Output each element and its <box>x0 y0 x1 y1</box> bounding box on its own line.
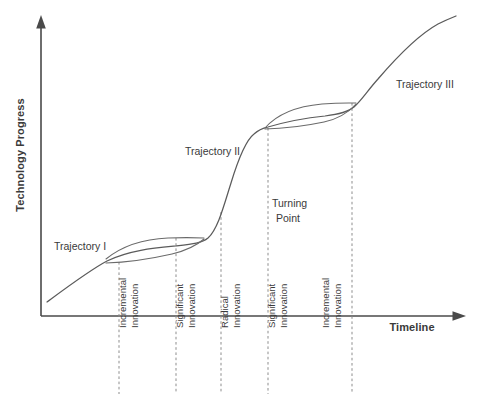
tick-label-2-line1: Significant <box>174 283 185 328</box>
x-axis: Timeline <box>41 311 466 333</box>
turning-point-annotation: Turning Point <box>272 197 307 224</box>
trajectory-2-label: Trajectory II <box>185 145 240 157</box>
tick-label-group-1: Incremental Innovation <box>117 278 140 328</box>
y-axis-title: Technology Progress <box>14 98 26 212</box>
tick-label-3-line2: Innovation <box>231 284 242 328</box>
x-axis-arrowhead <box>453 311 467 321</box>
x-axis-title: Timeline <box>389 321 434 333</box>
diagram-canvas: Technology Progress Timeline <box>0 0 497 398</box>
turning-point-label-line1: Turning <box>272 197 307 209</box>
y-axis-arrowhead <box>36 15 46 29</box>
lens-region-trajectory-2 <box>265 103 356 129</box>
trajectory-3-label: Trajectory III <box>396 78 454 90</box>
s-curve-group <box>47 16 456 302</box>
turning-point-label-line2: Point <box>276 212 300 224</box>
tick-label-group-2: Significant Innovation <box>174 283 197 328</box>
tick-label-5-line2: Innovation <box>332 284 343 328</box>
technology-progress-curve <box>47 16 456 302</box>
tick-label-2-line2: Innovation <box>186 284 197 328</box>
trajectory-labels: Trajectory I Trajectory II Trajectory II… <box>54 78 454 252</box>
trajectory-1-label: Trajectory I <box>54 240 106 252</box>
timeline-tick-labels: Incremental Innovation Significant Innov… <box>117 278 343 328</box>
tick-label-group-3: Radical Innovation <box>219 284 242 328</box>
tick-label-4-line2: Innovation <box>278 284 289 328</box>
tick-label-group-5: Incremental Innovation <box>320 278 343 328</box>
tick-label-3-line1: Radical <box>219 296 230 328</box>
y-axis: Technology Progress <box>14 15 46 316</box>
tick-label-group-4: Significant Innovation <box>266 283 289 328</box>
tick-label-5-line1: Incremental <box>320 278 331 328</box>
tick-label-1-line1: Incremental <box>117 278 128 328</box>
lens-1-lower-arc <box>106 239 204 263</box>
tick-label-1-line2: Innovation <box>129 284 140 328</box>
technology-s-curve-figure: Technology Progress Timeline <box>0 0 497 398</box>
lens-region-trajectory-1 <box>106 238 204 263</box>
tick-label-4-line1: Significant <box>266 283 277 328</box>
